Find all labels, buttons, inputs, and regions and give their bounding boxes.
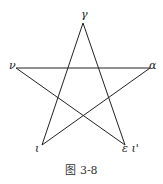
vertex-label-bottom-right: ε ι' bbox=[122, 143, 139, 154]
vertex-label-right: α bbox=[149, 60, 156, 71]
vertex-label-left: ν bbox=[9, 60, 16, 71]
vertex-label-bottom-left: ι bbox=[35, 143, 39, 154]
figure-caption: 图 3-8 bbox=[0, 161, 163, 177]
pentagram-figure bbox=[0, 0, 163, 184]
vertex-label-top: γ bbox=[81, 9, 88, 20]
